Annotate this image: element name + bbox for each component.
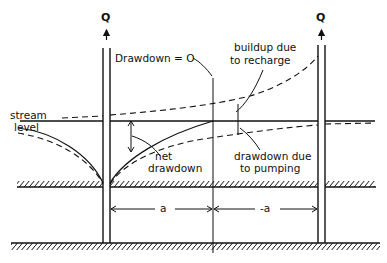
pumping-drawdown-label-line1: drawdown due xyxy=(234,151,311,162)
q-left-label: Q xyxy=(101,12,110,23)
diagram-drawing xyxy=(0,0,387,263)
lower-ground-hatch xyxy=(11,243,380,250)
drawdown-zero-label: Drawdown = O xyxy=(115,53,195,64)
net-drawdown-label-line1: net xyxy=(155,151,172,162)
right-well xyxy=(318,30,325,243)
stream-label-line1: stream xyxy=(10,110,47,121)
diagram-canvas: Q Q Drawdown = O buildup due to recharge… xyxy=(0,0,387,263)
net-drawdown-label-line2: drawdown xyxy=(148,163,202,174)
stream-label-line2: level xyxy=(14,122,39,133)
upper-ground-hatch xyxy=(17,181,376,187)
q-right-label: Q xyxy=(316,12,325,23)
distance-a-label: a xyxy=(160,203,166,214)
pumping-drawdown-curve xyxy=(18,123,375,184)
distance-dimension xyxy=(111,206,317,212)
buildup-label-line2: to recharge xyxy=(230,55,291,66)
left-well xyxy=(103,30,110,243)
buildup-label-line1: buildup due xyxy=(234,42,296,53)
distance-neg-a-label: -a xyxy=(260,203,270,214)
pumping-drawdown-label-line2: to pumping xyxy=(240,163,300,174)
